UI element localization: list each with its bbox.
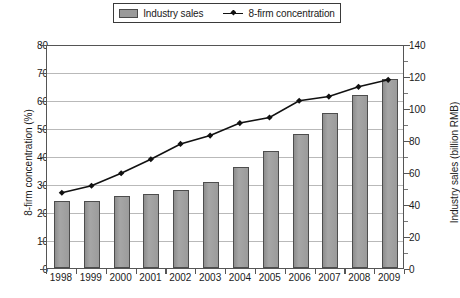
bar xyxy=(382,79,398,268)
bar-series-industry-sales xyxy=(47,45,403,268)
x-axis-tick-mark xyxy=(106,269,107,274)
bar-slot xyxy=(196,45,226,268)
bar xyxy=(352,95,368,268)
y-axis-right-tick-label: 0 xyxy=(409,264,439,275)
plot-area xyxy=(46,45,404,269)
bar-slot xyxy=(47,45,77,268)
legend-label-concentration: 8-firm concentration xyxy=(248,8,334,19)
y-axis-right-tick-label: 60 xyxy=(409,168,439,179)
x-axis-tick-label: 2007 xyxy=(318,272,340,283)
bar xyxy=(263,151,279,268)
x-axis-tick-mark xyxy=(46,269,47,274)
bar xyxy=(203,182,219,268)
bar-slot xyxy=(316,45,346,268)
legend-item-industry-sales: Industry sales xyxy=(119,8,203,19)
x-axis-tick-label: 1999 xyxy=(80,272,102,283)
x-axis-tick-label: 2008 xyxy=(348,272,370,283)
x-axis-tick-label: 2005 xyxy=(259,272,281,283)
bar-slot xyxy=(137,45,167,268)
bar-slot xyxy=(286,45,316,268)
x-axis-tick-mark xyxy=(76,269,77,274)
legend-label-industry-sales: Industry sales xyxy=(143,8,203,19)
x-axis-tick-mark xyxy=(225,269,226,274)
y-axis-right-tick-label: 120 xyxy=(409,72,439,83)
bar xyxy=(233,167,249,268)
bar xyxy=(54,201,70,268)
x-axis-tick-mark xyxy=(344,269,345,274)
chart-legend: Industry sales 8-firm concentration xyxy=(113,3,341,23)
bar xyxy=(114,196,130,268)
x-axis-tick-mark xyxy=(404,269,405,274)
y-axis-right-tick-label: 40 xyxy=(409,200,439,211)
x-axis-tick-mark xyxy=(195,269,196,274)
bar xyxy=(84,201,100,268)
legend-item-concentration: 8-firm concentration xyxy=(223,8,334,19)
bar-swatch-icon xyxy=(119,9,138,18)
x-axis-tick-label: 2002 xyxy=(169,272,191,283)
bar-slot xyxy=(375,45,405,268)
x-axis-tick-label: 2000 xyxy=(109,272,131,283)
x-axis-tick-mark xyxy=(165,269,166,274)
x-axis-tick-label: 2001 xyxy=(139,272,161,283)
x-axis-tick-label: 2006 xyxy=(288,272,310,283)
x-axis-tick-mark xyxy=(374,269,375,274)
x-axis-tick-mark xyxy=(315,269,316,274)
x-axis-tick-mark xyxy=(285,269,286,274)
y-axis-left-title: 8-firm concentration (%) xyxy=(23,83,34,243)
bar-slot xyxy=(345,45,375,268)
x-axis-tick-label: 2003 xyxy=(199,272,221,283)
x-axis-tick-label: 1998 xyxy=(50,272,72,283)
x-axis-tick-mark xyxy=(255,269,256,274)
x-axis-tick-label: 2009 xyxy=(378,272,400,283)
y-axis-right-tick-label: 140 xyxy=(409,40,439,51)
bar-slot xyxy=(226,45,256,268)
y-axis-right-tick-label: 20 xyxy=(409,232,439,243)
y-axis-right-title: Industry sales (billion RMB) xyxy=(449,75,460,250)
bar-slot xyxy=(256,45,286,268)
bar-slot xyxy=(107,45,137,268)
y-axis-right-tick-label: 100 xyxy=(409,104,439,115)
x-axis-tick-label: 2004 xyxy=(229,272,251,283)
bar-slot xyxy=(77,45,107,268)
line-marker-icon xyxy=(223,9,243,18)
x-axis-tick-mark xyxy=(136,269,137,274)
bar xyxy=(143,194,159,268)
bar xyxy=(293,134,309,268)
bar xyxy=(322,113,338,268)
y-axis-right-tick-label: 80 xyxy=(409,136,439,147)
bar-slot xyxy=(166,45,196,268)
bar xyxy=(173,190,189,268)
